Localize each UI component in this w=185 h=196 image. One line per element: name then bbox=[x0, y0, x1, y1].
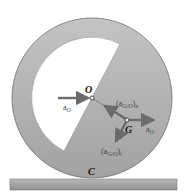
ground bbox=[10, 179, 177, 190]
point-G bbox=[125, 118, 129, 122]
point-O bbox=[90, 96, 94, 100]
label-O: O bbox=[85, 84, 92, 95]
wheel-diagram: O G C aO aO (aG/O)n (aG/O)t bbox=[0, 0, 185, 196]
label-G: G bbox=[125, 124, 133, 135]
label-C: C bbox=[88, 166, 95, 177]
